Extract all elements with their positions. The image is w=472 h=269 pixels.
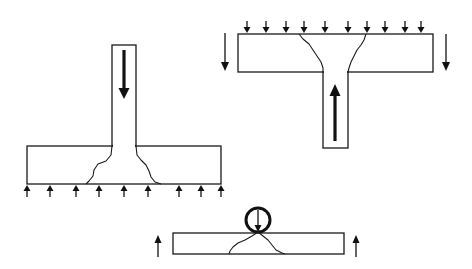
arrow-up-icon [198, 185, 205, 197]
arrow-up-icon [73, 185, 80, 197]
load-arrow-up-icon [330, 84, 341, 141]
crack-left [86, 146, 112, 184]
arrow-down-icon [263, 21, 270, 33]
arrow-up-icon [96, 185, 103, 197]
edge-arrow-left-up-icon [155, 235, 162, 257]
panel-column-footing [24, 45, 225, 197]
punching-shear-diagram [0, 0, 472, 269]
arrow-up-icon [47, 185, 54, 197]
distributed-load-arrows-down [244, 21, 425, 33]
arrow-down-icon [345, 21, 352, 33]
arrow-down-icon [402, 21, 409, 33]
arrow-up-icon [24, 185, 31, 197]
panel-inverted-column-slab [221, 21, 450, 148]
crack-right [348, 34, 366, 72]
crack-right [136, 146, 161, 184]
arrow-down-icon [382, 21, 389, 33]
crack-right [258, 232, 285, 254]
arrow-up-icon [176, 185, 183, 197]
slab [238, 34, 433, 72]
arrow-up-icon [218, 185, 225, 197]
footing-slab [27, 146, 221, 184]
reaction-arrows-up [24, 185, 225, 197]
arrow-down-icon [301, 21, 308, 33]
arrow-down-icon [283, 21, 290, 33]
load-arrow-down-icon [119, 50, 130, 99]
edge-arrow-left-down-icon [221, 33, 229, 71]
arrow-down-icon [244, 21, 251, 33]
beam [173, 233, 344, 254]
arrow-up-icon [145, 185, 152, 197]
arrow-down-icon [322, 21, 329, 33]
arrow-down-icon [364, 21, 371, 33]
arrow-up-icon [121, 185, 128, 197]
edge-arrow-right-down-icon [442, 34, 450, 71]
panel-point-load-beam [155, 208, 360, 257]
crack-left [229, 232, 258, 254]
arrow-down-icon [418, 21, 425, 33]
crack-left [299, 34, 323, 72]
edge-arrow-right-up-icon [353, 235, 360, 257]
